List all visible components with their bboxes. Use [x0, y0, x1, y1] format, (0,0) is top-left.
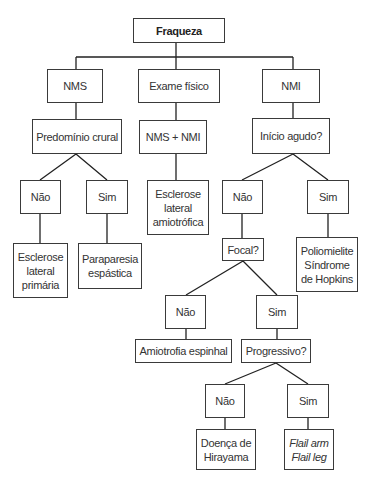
node-polio: Poliomielite Síndrome de Hopkins — [296, 237, 358, 292]
node-sim2: Sim — [307, 180, 349, 214]
node-nao2: Não — [222, 180, 263, 214]
node-focal: Focal? — [222, 238, 264, 261]
node-nao3: Não — [165, 295, 206, 329]
node-fraqueza: Fraqueza — [133, 18, 225, 43]
node-nao4: Não — [205, 384, 245, 418]
node-ela: Esclerose lateral amiotrófica — [147, 180, 209, 235]
top-bus-connector — [76, 43, 293, 69]
node-sim1: Sim — [86, 180, 128, 214]
flowchart-diagram: FraquezaNMSExame físicoNMIPredomínio cru… — [0, 0, 371, 481]
node-paraparesia: Paraparesia espástica — [78, 243, 142, 289]
node-nao1: Não — [20, 180, 61, 214]
node-sim4: Sim — [287, 384, 329, 418]
node-elp: Esclerose lateral primária — [13, 243, 68, 298]
node-nms_nmi: NMS + NMI — [139, 120, 207, 154]
node-exame: Exame físico — [138, 69, 220, 103]
node-nms: NMS — [47, 69, 103, 103]
node-amiotrofia: Amiotrofia espinhal — [135, 339, 232, 363]
node-hirayama: Doença de Hirayama — [196, 429, 256, 470]
node-nmi: NMI — [262, 69, 320, 103]
node-progressivo: Progressivo? — [241, 339, 311, 363]
node-flail: Flail arm Flail leg — [284, 429, 334, 470]
node-inicio: Início agudo? — [252, 118, 330, 154]
node-predominio: Predomínio crural — [32, 119, 122, 154]
node-sim3: Sim — [256, 295, 298, 329]
